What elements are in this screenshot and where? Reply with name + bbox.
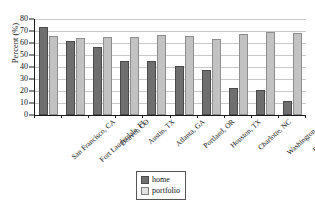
bar-home <box>175 66 184 115</box>
bar-home <box>147 61 156 115</box>
bar-group <box>279 19 306 115</box>
x-axis-label-3: Austin, TX <box>146 118 176 146</box>
bar-portfolio <box>212 39 221 115</box>
x-tick-mark <box>305 115 306 118</box>
y-axis-tick-60: 60 <box>0 39 28 47</box>
bar-portfolio <box>185 36 194 115</box>
y-axis-tick-20: 20 <box>0 87 28 95</box>
bar-group <box>89 19 116 115</box>
bar-group <box>35 19 62 115</box>
bar-group <box>116 19 143 115</box>
y-axis-tick-labels: 80706050403020100 <box>0 19 34 115</box>
x-axis-category-labels: San Francisco, CAFort Lauderdale, FLDenv… <box>34 118 305 170</box>
y-axis-tick-0: 0 <box>0 111 28 119</box>
bar-group <box>198 19 225 115</box>
bar-home <box>256 90 265 115</box>
bar-home <box>120 61 129 115</box>
legend-item-portfolio: portfolio <box>141 185 180 196</box>
y-axis-tick-50: 50 <box>0 51 28 59</box>
chart-legend: home portfolio <box>136 171 186 200</box>
plot-area <box>34 19 306 116</box>
bar-home <box>93 47 102 115</box>
bar-portfolio <box>76 38 85 115</box>
bar-group <box>143 19 170 115</box>
bar-portfolio <box>239 34 248 115</box>
y-axis-tick-80: 80 <box>0 15 28 23</box>
legend-swatch-portfolio <box>141 187 149 195</box>
bar-chart: Percent (%) 80706050403020100 San Franci… <box>0 0 315 209</box>
bar-home <box>39 27 48 115</box>
legend-label-home: home <box>152 175 170 184</box>
bar-home <box>202 70 211 115</box>
legend-swatch-home <box>141 176 149 184</box>
bar-home <box>229 88 238 115</box>
bar-portfolio <box>49 36 58 115</box>
bar-group <box>170 19 197 115</box>
bar-portfolio <box>157 35 166 115</box>
bar-group <box>252 19 279 115</box>
bar-home <box>66 41 75 115</box>
bar-home <box>283 101 292 115</box>
bar-portfolio <box>130 37 139 115</box>
legend-item-home: home <box>141 174 180 185</box>
y-axis-tick-70: 70 <box>0 27 28 35</box>
bar-group <box>225 19 252 115</box>
y-axis-tick-30: 30 <box>0 75 28 83</box>
bar-portfolio <box>266 32 275 115</box>
bar-group <box>62 19 89 115</box>
y-axis-tick-40: 40 <box>0 63 28 71</box>
bar-portfolio <box>293 33 302 115</box>
legend-label-portfolio: portfolio <box>152 186 180 195</box>
bar-groups <box>35 19 306 115</box>
bar-portfolio <box>103 37 112 115</box>
y-axis-tick-10: 10 <box>0 99 28 107</box>
